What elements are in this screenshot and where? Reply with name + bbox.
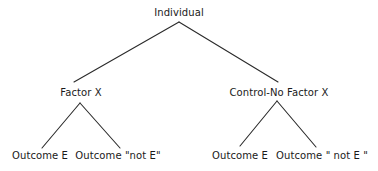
edge-control-to-outcome-e [240,101,277,146]
edge-root-to-factor-x [74,22,179,82]
edge-root-to-control [179,22,278,82]
node-control-no-factor-x: Control-No Factor X [229,88,328,98]
edge-factor-x-to-outcome-e [42,103,80,148]
node-factor-x-outcome-e: Outcome E [12,151,68,161]
node-control-outcome-not-e: Outcome " not E " [276,151,368,161]
node-factor-x: Factor X [60,88,101,98]
node-individual: Individual [154,8,204,18]
tree-edges [0,0,378,171]
node-factor-x-outcome-not-e: Outcome "not E" [75,151,160,161]
node-control-outcome-e: Outcome E [212,151,268,161]
tree-diagram: Individual Factor X Control-No Factor X … [0,0,378,171]
edge-control-to-outcome-not-e [277,101,316,147]
edge-factor-x-to-outcome-not-e [80,103,120,148]
